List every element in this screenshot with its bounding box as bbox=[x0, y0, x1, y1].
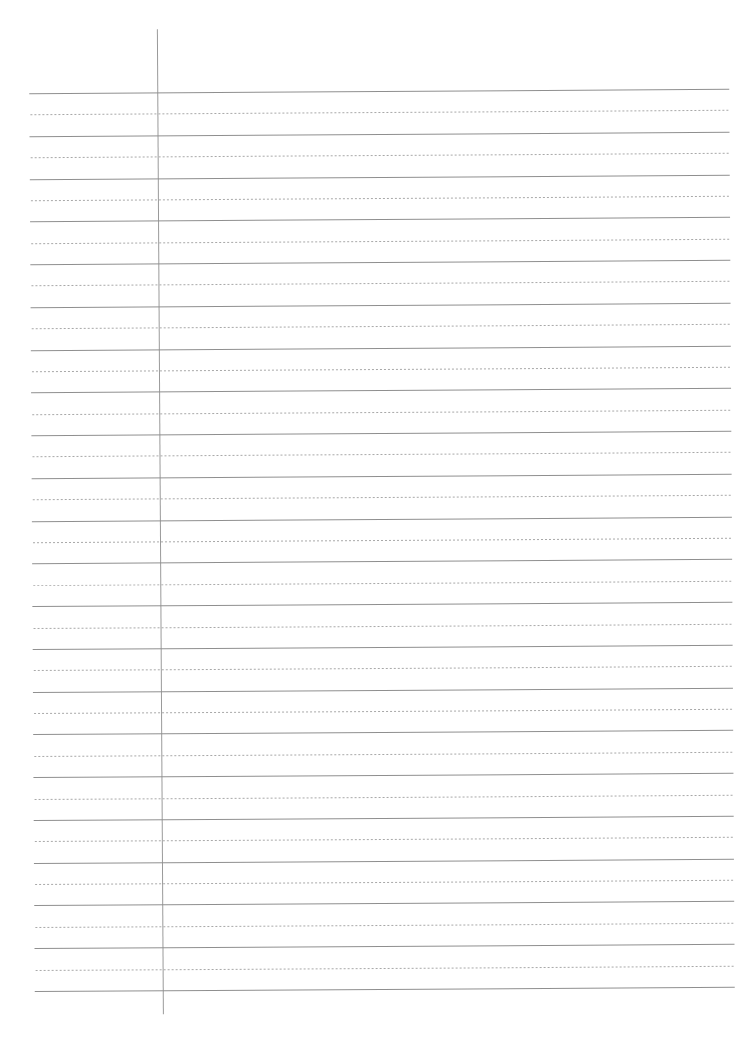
dotted-guide-line bbox=[33, 623, 733, 628]
dotted-guide-line bbox=[32, 495, 732, 500]
dotted-guide-line bbox=[31, 367, 731, 372]
lined-paper-sheet bbox=[0, 0, 738, 1049]
solid-rule-line bbox=[32, 602, 732, 607]
dotted-guide-line bbox=[29, 110, 729, 115]
solid-rule-line bbox=[35, 987, 735, 992]
solid-rule-line bbox=[34, 816, 734, 821]
dotted-guide-line bbox=[34, 880, 734, 885]
solid-rule-line bbox=[33, 773, 733, 778]
dotted-guide-line bbox=[33, 709, 733, 714]
dotted-guide-line bbox=[30, 239, 730, 244]
dotted-guide-line bbox=[35, 965, 735, 970]
solid-rule-line bbox=[30, 174, 730, 179]
dotted-guide-line bbox=[30, 153, 730, 158]
solid-rule-line bbox=[32, 474, 732, 479]
solid-rule-line bbox=[32, 516, 732, 521]
dotted-guide-line bbox=[34, 923, 734, 928]
solid-rule-line bbox=[33, 730, 733, 735]
solid-rule-line bbox=[31, 388, 731, 393]
solid-rule-line bbox=[34, 901, 734, 906]
solid-rule-line bbox=[30, 132, 730, 137]
dotted-guide-line bbox=[34, 837, 734, 842]
solid-rule-line bbox=[31, 431, 731, 436]
dotted-guide-line bbox=[30, 196, 730, 201]
solid-rule-line bbox=[32, 559, 732, 564]
dotted-guide-line bbox=[30, 281, 730, 286]
solid-rule-line bbox=[34, 859, 734, 864]
dotted-guide-line bbox=[34, 794, 734, 799]
dotted-guide-line bbox=[33, 752, 733, 757]
solid-rule-line bbox=[34, 944, 734, 949]
solid-rule-line bbox=[33, 687, 733, 692]
dotted-guide-line bbox=[33, 666, 733, 671]
solid-rule-line bbox=[31, 303, 731, 308]
solid-rule-line bbox=[31, 345, 731, 350]
solid-rule-line bbox=[30, 217, 730, 222]
dotted-guide-line bbox=[31, 452, 731, 457]
dotted-guide-line bbox=[32, 538, 732, 543]
dotted-guide-line bbox=[31, 410, 731, 415]
solid-rule-line bbox=[29, 89, 729, 94]
solid-rule-line bbox=[33, 645, 733, 650]
dotted-guide-line bbox=[32, 581, 732, 586]
dotted-guide-line bbox=[31, 324, 731, 329]
solid-rule-line bbox=[30, 260, 730, 265]
